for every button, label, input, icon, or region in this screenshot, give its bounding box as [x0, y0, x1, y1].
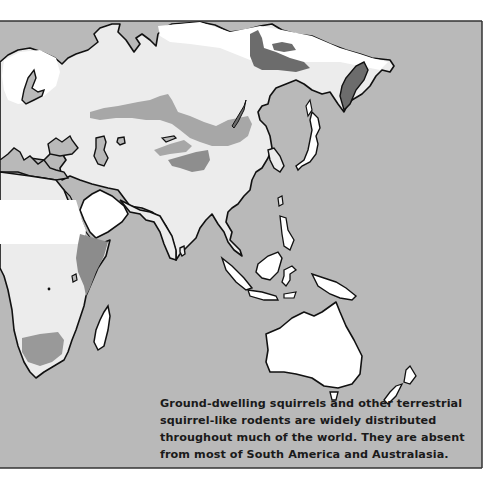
- caption-line-4: from most of South America and Australas…: [160, 446, 490, 463]
- map-caption: Ground-dwelling squirrels and other terr…: [160, 395, 490, 463]
- lake-dot: [48, 288, 51, 291]
- aral-sea: [117, 137, 125, 145]
- sri-lanka: [180, 246, 185, 256]
- taiwan: [278, 196, 283, 206]
- caption-line-3: throughout much of the world. They are a…: [160, 429, 490, 446]
- sahara-absent-zone: [0, 200, 86, 244]
- caption-line-1: Ground-dwelling squirrels and other terr…: [160, 395, 490, 412]
- caption-line-2: squirrel-like rodents are widely distrib…: [160, 412, 490, 429]
- lake-victoria: [72, 274, 77, 282]
